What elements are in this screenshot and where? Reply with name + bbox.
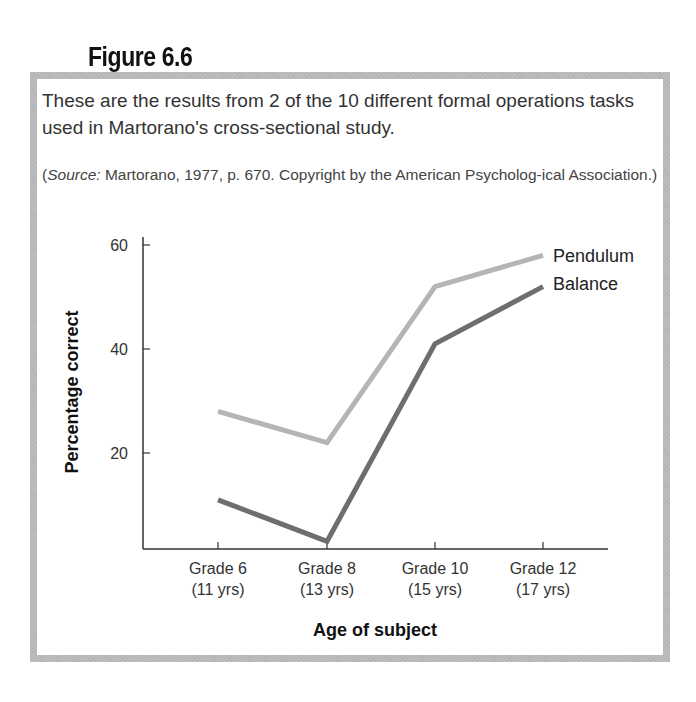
y-tick-label: 20 [110, 445, 128, 462]
x-tick-label-grade: Grade 10 [402, 560, 469, 577]
x-tick-label-age: (13 yrs) [300, 581, 354, 598]
x-tick-label-grade: Grade 8 [298, 560, 356, 577]
x-tick-label-age: (11 yrs) [191, 581, 244, 598]
figure-label: Figure 6.6 [88, 41, 192, 73]
series-line-pendulum [218, 255, 543, 442]
chart-axes [143, 237, 608, 549]
chart-series [218, 255, 543, 541]
x-tick-label-grade: Grade 12 [510, 560, 577, 577]
y-tick-label: 60 [110, 237, 128, 254]
x-tick-label-age: (15 yrs) [408, 581, 462, 598]
y-tick-label: 40 [110, 341, 128, 358]
legend-label-pendulum: Pendulum [553, 246, 634, 266]
y-axis-title: Percentage correct [62, 310, 82, 473]
series-line-balance [218, 287, 543, 542]
x-tick-label-age: (17 yrs) [516, 581, 570, 598]
chart-labels: 204060Grade 6(11 yrs)Grade 8(13 yrs)Grad… [62, 237, 634, 640]
line-chart: 204060Grade 6(11 yrs)Grade 8(13 yrs)Grad… [0, 0, 696, 702]
x-tick-label-grade: Grade 6 [189, 560, 247, 577]
x-axis-title: Age of subject [313, 620, 437, 640]
legend-label-balance: Balance [553, 274, 618, 294]
